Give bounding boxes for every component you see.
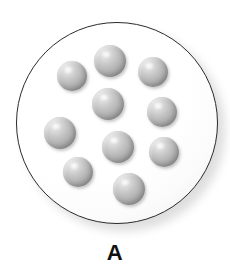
vessel-group bbox=[0, 0, 230, 240]
figure-label-a: A bbox=[0, 240, 230, 266]
sphere-6 bbox=[44, 117, 76, 149]
sphere-2 bbox=[57, 61, 87, 91]
diagram-figure: A bbox=[0, 0, 230, 274]
sphere-10 bbox=[113, 173, 145, 205]
sphere-7 bbox=[102, 131, 134, 163]
sphere-8 bbox=[149, 137, 179, 167]
sphere-4 bbox=[92, 88, 124, 120]
sphere-3 bbox=[138, 57, 168, 87]
sphere-5 bbox=[147, 97, 177, 127]
sphere-9 bbox=[63, 157, 93, 187]
sphere-1 bbox=[94, 45, 126, 77]
